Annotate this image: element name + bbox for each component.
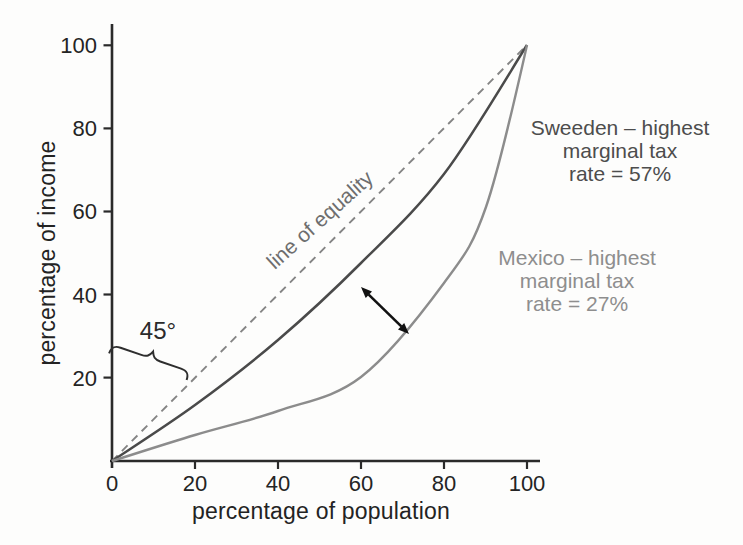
x-tick-label-80: 80 (412, 471, 476, 497)
sweden-series-label: Sweeden – highest marginal tax rate = 57… (505, 116, 735, 185)
sweden-label-line1: Sweeden – highest (505, 116, 735, 139)
x-tick-label-40: 40 (246, 471, 310, 497)
angle-45-label: 45° (128, 317, 188, 345)
mexico-series-label: Mexico – highest marginal tax rate = 27% (462, 246, 692, 315)
x-tick-label-20: 20 (163, 471, 227, 497)
x-tick-label-0: 0 (80, 471, 144, 497)
sweden-label-line3: rate = 57% (505, 162, 735, 185)
y-tick-label-100: 100 (39, 33, 97, 59)
gap-arrow-icon (361, 287, 409, 334)
x-tick-label-60: 60 (329, 471, 393, 497)
mexico-label-line2: marginal tax (462, 269, 692, 292)
x-axis-title: percentage of population (171, 498, 471, 525)
mexico-label-line3: rate = 27% (462, 292, 692, 315)
mexico-label-line1: Mexico – highest (462, 246, 692, 269)
y-axis-title: percentage of income (34, 103, 62, 403)
lorenz-curve-figure: 100 80 60 40 20 0 20 40 60 80 100 percen… (0, 0, 743, 545)
sweden-label-line2: marginal tax (505, 139, 735, 162)
x-tick-label-100: 100 (495, 471, 559, 497)
